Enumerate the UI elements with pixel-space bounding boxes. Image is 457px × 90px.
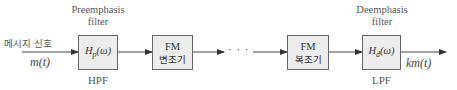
deemphasis-transfer-function: Hd(ω) (368, 44, 394, 61)
fm-label: FM (300, 40, 315, 53)
fm-modulator-block: FM 변조기 (152, 35, 193, 70)
modulator-label: 변조기 (159, 53, 186, 66)
input-label: 메시지 신호 (4, 36, 52, 50)
deemphasis-filter-block: Hd(ω) (362, 35, 401, 70)
deemphasis-label: Deemphasis (352, 4, 412, 16)
fm-demodulator-block: FM 복조기 (287, 35, 329, 70)
filter-label: filter (68, 16, 128, 28)
filter-label: filter (352, 16, 412, 28)
deemphasis-title: Deemphasis filter (352, 4, 412, 28)
demodulator-label: 복조기 (295, 53, 322, 66)
fm-label: FM (165, 40, 180, 53)
hpf-label: HPF (78, 74, 118, 86)
output-signal: km(t) (406, 56, 431, 71)
ellipsis: · · · (228, 43, 250, 55)
preemphasis-transfer-function: Hp(ω) (85, 44, 111, 61)
preemphasis-title: Preemphasis filter (68, 4, 128, 28)
input-signal: m(t) (30, 55, 50, 70)
preemphasis-filter-block: Hp(ω) (78, 35, 118, 70)
lpf-label: LPF (362, 74, 401, 86)
preemphasis-label: Preemphasis (68, 4, 128, 16)
